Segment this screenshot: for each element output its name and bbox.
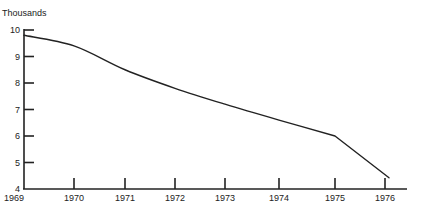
y-tick-label: 10 [10,25,20,35]
x-tick-label: 1976 [375,193,395,203]
x-tick-label: 1975 [325,193,345,203]
x-tick-label: 1973 [215,193,235,203]
x-tick-label: 1974 [269,193,289,203]
y-axis-unit-label: Thousands [2,8,47,18]
x-tick-label: 1972 [165,193,185,203]
series-line [24,35,389,177]
x-tick-label: 1971 [115,193,135,203]
y-tick-label: 9 [15,52,20,62]
x-tick-label: 1970 [64,193,84,203]
line-chart: Thousands 45678910 196919701971197219731… [0,0,421,218]
y-tick-label: 8 [15,78,20,88]
y-tick-label: 7 [15,105,20,115]
y-axis-ticks: 45678910 [10,25,34,194]
y-tick-label: 6 [15,131,20,141]
y-tick-label: 5 [15,158,20,168]
x-tick-label: 1969 [4,193,24,203]
x-axis-ticks: 19691970197119721973197419751976 [4,178,395,203]
